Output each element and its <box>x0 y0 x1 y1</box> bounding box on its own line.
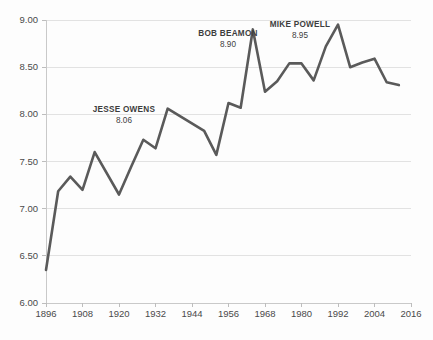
tick-marks <box>42 20 411 307</box>
y-axis-label-8.50: 8.50 <box>20 61 39 72</box>
x-axis-label-2016: 2016 <box>400 308 421 319</box>
y-axis-label-8.00: 8.00 <box>20 108 39 119</box>
annotation-name-jesse-owens: JESSE OWENS <box>93 105 156 114</box>
annotation-value-mike-powell: 8.95 <box>292 31 308 40</box>
x-axis-label-1980: 1980 <box>291 308 312 319</box>
annotation-name-mike-powell: MIKE POWELL <box>270 20 331 29</box>
data-series <box>46 25 399 270</box>
line-chart: 6.006.507.007.508.008.509.00 18961908192… <box>0 0 433 340</box>
x-axis-label-1920: 1920 <box>108 308 129 319</box>
annotation-value-bob-beamon: 8.90 <box>220 40 236 49</box>
y-axis-label-9.00: 9.00 <box>20 14 39 25</box>
x-axis-tick-labels: 1896190819201932194419561968198019922004… <box>35 308 421 319</box>
y-axis-tick-labels: 6.006.507.007.508.008.509.00 <box>20 14 39 308</box>
annotation-bob-beamon: BOB BEAMON8.90 <box>198 29 257 49</box>
x-axis-label-1944: 1944 <box>181 308 202 319</box>
y-axis-label-7.50: 7.50 <box>20 156 39 167</box>
chart-container: 6.006.507.007.508.008.509.00 18961908192… <box>0 0 433 340</box>
x-axis-label-1968: 1968 <box>254 308 275 319</box>
y-axis-label-6.00: 6.00 <box>20 297 39 308</box>
x-axis-label-1908: 1908 <box>72 308 93 319</box>
annotation-name-bob-beamon: BOB BEAMON <box>198 29 257 38</box>
annotation-mike-powell: MIKE POWELL8.95 <box>270 20 331 40</box>
x-axis-label-1932: 1932 <box>145 308 166 319</box>
x-axis-label-1992: 1992 <box>327 308 348 319</box>
chart-annotations: JESSE OWENS8.06BOB BEAMON8.90MIKE POWELL… <box>93 20 330 125</box>
x-axis-label-1896: 1896 <box>35 308 56 319</box>
x-axis-label-2004: 2004 <box>364 308 385 319</box>
y-axis-label-7.00: 7.00 <box>20 203 39 214</box>
annotation-value-jesse-owens: 8.06 <box>116 116 132 125</box>
y-axis-label-6.50: 6.50 <box>20 250 39 261</box>
series-line-0 <box>46 25 399 270</box>
annotation-jesse-owens: JESSE OWENS8.06 <box>93 105 156 125</box>
x-axis-label-1956: 1956 <box>218 308 239 319</box>
